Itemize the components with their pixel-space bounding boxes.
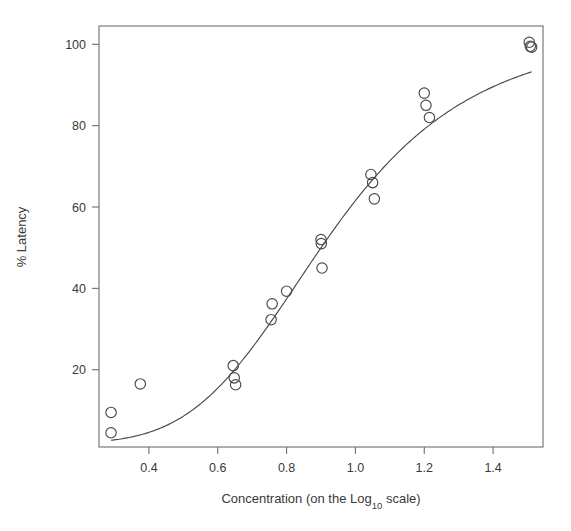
x-tick-label-1.0: 1.0 [347,461,364,475]
y-tick-label-20: 20 [72,363,86,377]
y-tick-label-80: 80 [72,119,86,133]
y-axis-title: % Latency [14,206,29,267]
x-tick-label-1.4: 1.4 [484,461,501,475]
x-tick-label-0.4: 0.4 [140,461,157,475]
y-tick-label-40: 40 [72,282,86,296]
x-tick-label-0.6: 0.6 [209,461,226,475]
y-tick-label-100: 100 [65,38,86,52]
figure-background [0,0,571,531]
x-tick-label-1.2: 1.2 [416,461,433,475]
plot-canvas: 0.40.60.81.01.21.4 20406080100 Concentra… [0,0,571,531]
scatter-plot-figure: 0.40.60.81.01.21.4 20406080100 Concentra… [0,0,571,531]
x-tick-label-0.8: 0.8 [278,461,295,475]
y-tick-label-60: 60 [72,201,86,215]
